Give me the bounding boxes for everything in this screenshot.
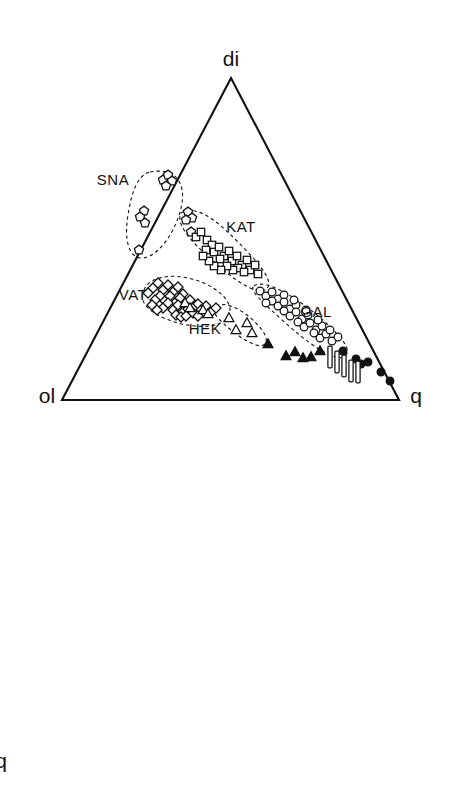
data-point-circle-filled (377, 368, 385, 376)
data-point-triangle-filled (281, 351, 291, 360)
data-point-square-open (225, 247, 232, 254)
data-point-triangle-filled (315, 346, 325, 355)
corner-label-q-bottom: q (0, 749, 7, 772)
data-point-circle-open (290, 296, 298, 304)
data-point-square-open (217, 266, 224, 273)
data-point-square-open (216, 255, 223, 262)
data-point-triangle-filled (263, 339, 273, 348)
data-point-square-open (254, 270, 261, 277)
data-point-circle-open (268, 288, 276, 296)
data-point-circle-open (334, 333, 342, 341)
corner-label-ol-top: ol (39, 384, 55, 407)
data-point-square-open (197, 228, 204, 235)
data-point-circle-filled (386, 377, 394, 385)
data-point-square-open (199, 252, 206, 259)
data-point-triangle-open (242, 318, 252, 327)
field-label-kat: KAT (226, 218, 256, 235)
data-point-triangle-open (231, 325, 241, 334)
triangle-outline-top (62, 78, 399, 400)
data-point-circle-open (292, 308, 300, 316)
data-point-triangle-filled (306, 352, 316, 361)
data-point-bar-open (342, 355, 346, 377)
data-point-bar-open (349, 360, 353, 382)
data-point-triangle-open (224, 313, 234, 322)
data-point-square-open (240, 268, 247, 275)
data-point-square-open (243, 256, 250, 263)
bottom-ternary-svg: pl ol q SnaefellsnesKatlaVatnafjöllHekla… (0, 415, 462, 808)
data-point-circle-filled (364, 358, 372, 366)
field-label-hek: HEK (189, 320, 221, 337)
data-point-circle-open (280, 298, 288, 306)
data-point-square-open (251, 261, 258, 268)
field-label-gal: GAL (300, 303, 332, 320)
data-markers-top (134, 170, 393, 385)
series-hekla-filled- (263, 339, 325, 362)
apex-label-di: di (223, 47, 239, 70)
data-point-bar-open (335, 351, 339, 373)
series-katla (192, 228, 261, 277)
data-point-square-open (233, 252, 240, 259)
data-point-triangle-filled (290, 347, 300, 356)
field-label-sna: SNA (97, 171, 129, 188)
corner-label-q-top: q (410, 384, 422, 407)
field-label-vat: VAT (119, 286, 147, 303)
panel-ternary-pl-ol-q: pl ol q SnaefellsnesKatlaVatnafjöllHekla… (0, 415, 462, 808)
data-point-triangle-open (247, 328, 257, 337)
data-point-circle-open (326, 326, 334, 334)
data-point-circle-open (262, 299, 270, 307)
data-point-bar-open (328, 346, 332, 368)
panel-ternary-di-ol-q: di ol q SNA KAT VAT HEK GAL (0, 0, 462, 415)
top-ternary-svg: di ol q SNA KAT VAT HEK GAL (0, 0, 462, 415)
data-point-square-open (215, 243, 222, 250)
data-point-circle-open (306, 319, 314, 327)
ternary-diagram-figure: di ol q SNA KAT VAT HEK GAL pl ol q Snae… (0, 0, 462, 808)
data-point-bar-open (356, 361, 360, 383)
data-point-circle-filled (339, 347, 347, 355)
